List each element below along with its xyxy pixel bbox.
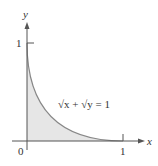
- x-axis-arrow-icon: [138, 139, 145, 144]
- x-axis-label: x: [146, 135, 152, 147]
- x-tick-label: 1: [120, 145, 126, 157]
- shaded-region: [27, 43, 123, 141]
- y-tick-label: 1: [16, 37, 22, 49]
- chart: y x 1 0 1 √x + √y = 1: [0, 0, 158, 166]
- y-axis-label: y: [22, 8, 28, 20]
- origin-label: 0: [18, 145, 24, 157]
- y-axis-arrow-icon: [25, 22, 30, 29]
- equation-label: √x + √y = 1: [58, 98, 110, 110]
